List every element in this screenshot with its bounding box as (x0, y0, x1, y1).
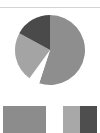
legend-swatch-medium (3, 106, 46, 133)
legend-swatch-light (63, 106, 80, 133)
legend-swatch-dark (80, 106, 97, 133)
legend-swatch-split (63, 106, 97, 133)
top-divider (0, 7, 100, 8)
pie-chart (14, 14, 86, 86)
